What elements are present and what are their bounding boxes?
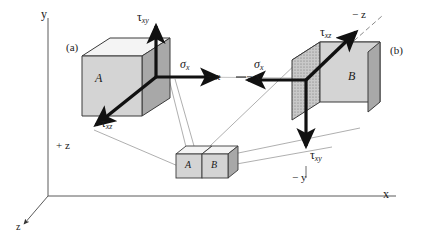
- figure-canvas: [0, 0, 428, 239]
- cube-b-side-face: [368, 42, 380, 112]
- small-block-b-letter: B: [211, 160, 217, 170]
- axis-label-x: x: [383, 188, 389, 200]
- label-tau-xz-a: τxz: [101, 117, 112, 131]
- axis-label-z: z: [16, 222, 20, 232]
- panel-label-a: (a): [66, 42, 78, 53]
- label-sigma-x-a: σx: [180, 58, 189, 72]
- cube-a-face-letter: A: [95, 72, 102, 84]
- connector-a-right: [175, 79, 194, 146]
- stress-element-figure: y x z + z − z + x − x − y (a) (b) τxy σx…: [0, 0, 428, 239]
- axis-z-line: [24, 196, 48, 224]
- small-block-a-letter: A: [185, 160, 191, 170]
- axis-label-minus-z: − z: [352, 9, 366, 20]
- label-tau-xy-b: τxy: [310, 149, 322, 163]
- axis-label-plus-x: + x: [206, 71, 220, 82]
- axis-label-plus-z: + z: [56, 140, 70, 151]
- axis-label-minus-y: − y: [292, 172, 306, 183]
- axis-label-y: y: [41, 8, 47, 20]
- label-tau-xy-a: τxy: [137, 11, 149, 25]
- label-tau-xz-b: τxz: [320, 26, 331, 40]
- panel-label-b: (b): [390, 45, 403, 56]
- cube-a-front-face: [82, 56, 142, 116]
- connector-a-bottom: [94, 130, 178, 166]
- axis-label-minus-x: − x: [246, 71, 260, 82]
- cube-b-face-letter: B: [348, 70, 355, 82]
- label-sigma-x-b: σx: [254, 58, 263, 72]
